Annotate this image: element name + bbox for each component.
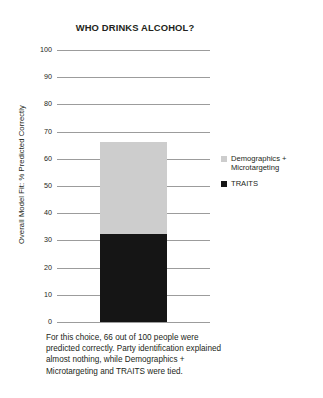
y-axis-tick-label: 20 — [30, 263, 52, 272]
legend-item[interactable]: TRAITS — [221, 179, 321, 188]
bar-segment-traits[interactable] — [100, 234, 167, 322]
chart-figure: WHO DRINKS ALCOHOL? Overall Model Fit: %… — [0, 0, 323, 398]
legend-swatch-icon — [221, 181, 227, 187]
y-axis-tick-label: 90 — [30, 72, 52, 81]
legend-swatch-icon — [221, 156, 227, 162]
bar-stacked[interactable] — [100, 0, 167, 322]
gridline — [57, 322, 210, 323]
y-axis-tick-label: 10 — [30, 290, 52, 299]
y-axis-tick-label: 80 — [30, 99, 52, 108]
legend-item-label: Demographics + Microtargeting — [231, 154, 321, 173]
legend: Demographics + Microtargeting TRAITS — [221, 154, 321, 194]
y-axis-tick-label: 0 — [30, 317, 52, 326]
y-axis-tick-label: 70 — [30, 127, 52, 136]
bar-segment-demographics-microtargeting[interactable] — [100, 142, 167, 233]
y-axis-tick-label: 100 — [30, 45, 52, 54]
y-axis-tick-label: 60 — [30, 154, 52, 163]
y-axis-tick-label: 40 — [30, 208, 52, 217]
legend-item[interactable]: Demographics + Microtargeting — [221, 154, 321, 173]
y-axis-tick-label: 50 — [30, 181, 52, 190]
y-axis-tick-label: 30 — [30, 235, 52, 244]
chart-annotation: For this choice, 66 out of 100 people we… — [46, 332, 231, 377]
legend-item-label: TRAITS — [231, 179, 258, 188]
